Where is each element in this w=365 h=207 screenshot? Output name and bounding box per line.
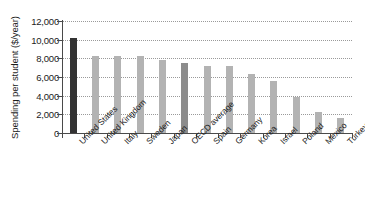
y-tick-label: 0 (19, 128, 59, 139)
x-category-label: Mexico (323, 139, 330, 146)
y-tick-label: 4,000 (19, 90, 59, 101)
x-axis-category-labels: United StatesUnited KingdomItalySwedenJa… (0, 139, 365, 207)
y-tick-mark (57, 58, 62, 59)
x-category-label: United States (77, 139, 84, 146)
y-tick-mark (57, 40, 62, 41)
x-category-label: Italy (122, 139, 129, 146)
y-tick-label: 2,000 (19, 109, 59, 120)
x-category-label: United Kingdom (99, 139, 106, 146)
x-tick-mark (62, 134, 63, 138)
x-category-label: Spain (211, 139, 218, 146)
y-tick-label: 10,000 (19, 34, 59, 45)
y-tick-mark (57, 96, 62, 97)
x-category-label: Germany (233, 139, 240, 146)
y-tick-mark (57, 114, 62, 115)
x-category-label: OECD average (189, 139, 196, 146)
x-category-label: Sweden (144, 139, 151, 146)
y-tick-label: 6,000 (19, 72, 59, 83)
y-tick-label: 8,000 (19, 53, 59, 64)
y-axis-tick-labels: 12,00010,0008,0006,0004,0002,0000 (19, 21, 59, 133)
x-category-label: Israel (278, 139, 285, 146)
y-tick-label: 12,000 (19, 16, 59, 27)
x-category-label: Japan (166, 139, 173, 146)
y-tick-mark (57, 133, 62, 134)
y-tick-mark (57, 77, 62, 78)
bar-chart: Spending per student ($/year) 12,00010,0… (0, 0, 365, 207)
x-category-label: Korea (256, 139, 263, 146)
x-category-label: Poland (300, 139, 307, 146)
y-tick-mark (57, 21, 62, 22)
bar (137, 56, 144, 133)
bar (70, 38, 77, 133)
x-category-label: Turkey (345, 139, 352, 146)
